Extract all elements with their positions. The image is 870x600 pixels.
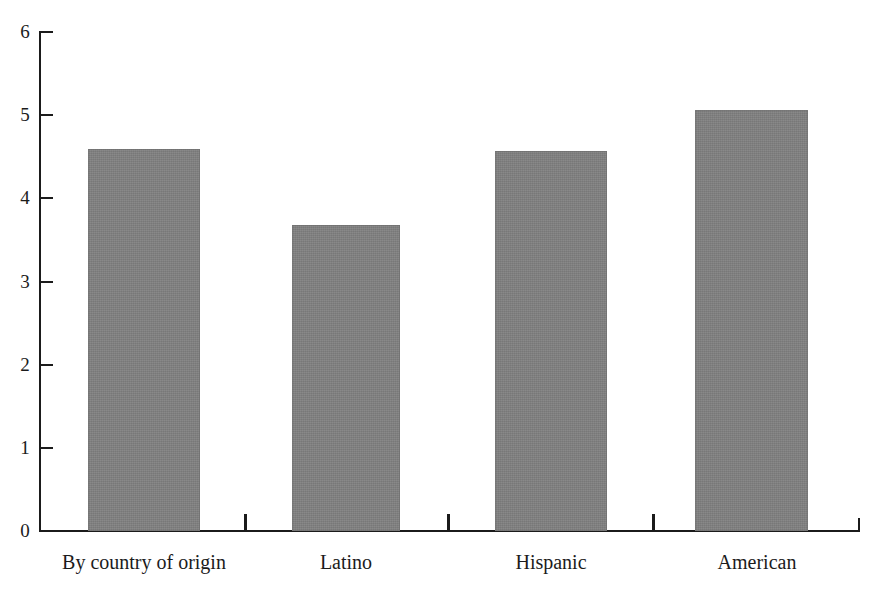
y-tick-label-2: 2: [0, 355, 30, 374]
y-tick-1: [41, 447, 53, 449]
bar-latino: [292, 225, 400, 531]
y-tick-4: [41, 197, 53, 199]
y-tick-6: [41, 31, 53, 33]
y-tick-3: [41, 281, 53, 283]
x-label-latino: Latino: [256, 550, 436, 574]
y-tick-label-3-wrap: 3: [0, 272, 30, 291]
y-tick-label-2-wrap: 2: [0, 355, 30, 374]
bar-hispanic: [495, 151, 607, 531]
y-tick-label-6-wrap: 6: [0, 22, 30, 41]
y-tick-label-4: 4: [0, 188, 30, 207]
y-tick-label-6: 6: [0, 22, 30, 41]
bar-chart-figure: 6 5 4 3 2 1 0 By country of origin Latin…: [0, 0, 870, 600]
y-tick-2: [41, 364, 53, 366]
y-tick-label-3: 3: [0, 272, 30, 291]
x-divider-3: [652, 514, 655, 531]
x-label-american: American: [662, 550, 852, 574]
y-tick-label-1: 1: [0, 438, 30, 457]
y-tick-label-5: 5: [0, 105, 30, 124]
bar-american: [695, 110, 808, 531]
y-tick-label-5-wrap: 5: [0, 105, 30, 124]
x-label-hispanic: Hispanic: [461, 550, 641, 574]
x-divider-1: [244, 514, 247, 531]
y-tick-label-4-wrap: 4: [0, 188, 30, 207]
x-divider-2: [447, 514, 450, 531]
y-tick-5: [41, 114, 53, 116]
x-axis-right-cap: [858, 518, 860, 532]
y-tick-label-0: 0: [0, 521, 30, 540]
x-label-by-country-of-origin: By country of origin: [44, 550, 244, 574]
y-tick-label-0-wrap: 0: [0, 521, 30, 540]
y-tick-label-1-wrap: 1: [0, 438, 30, 457]
bar-by-country-of-origin: [88, 149, 200, 531]
